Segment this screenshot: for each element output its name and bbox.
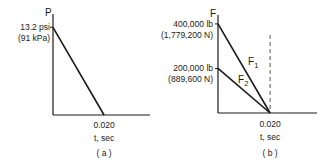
panel-label: ( a ) (96, 148, 111, 158)
x-axis-label: t, sec (94, 133, 115, 143)
x-tick-label: 0.020 (259, 119, 281, 129)
y-tick-sublabel: (889,600 N) (168, 74, 213, 84)
series-line-P (53, 27, 104, 115)
series-line-F1 (218, 24, 270, 113)
series-label: F2 (238, 74, 248, 88)
y-axis-label: P (45, 7, 52, 18)
series-label-subscript: 1 (254, 61, 258, 70)
series-label-subscript: 2 (244, 79, 248, 88)
y-tick-sublabel: (1,779,200 N) (161, 30, 213, 40)
y-tick-label: 200,000 lb (173, 63, 213, 73)
x-axis-label: t, sec (260, 132, 281, 142)
y-tick-label: 13.2 psi (20, 22, 50, 32)
series-label: F1 (248, 56, 258, 70)
panel-label: ( b ) (263, 148, 278, 158)
y-tick-label: 400,000 lb (173, 19, 213, 29)
chart-figure: P13.2 psi(91 kPa)0.020t, sec( a )F400,00… (0, 0, 328, 168)
y-axis-label: F (210, 8, 216, 19)
y-tick-sublabel: (91 kPa) (18, 33, 50, 43)
x-tick-label: 0.020 (93, 120, 115, 130)
